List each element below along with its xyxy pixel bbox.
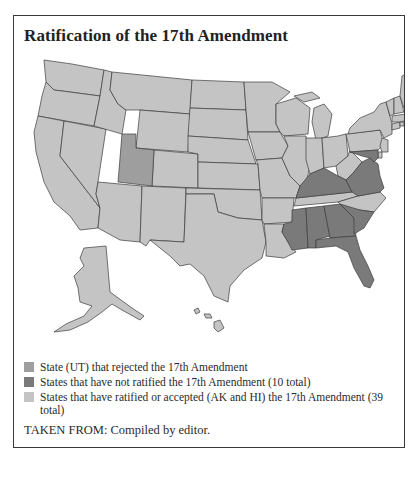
state-AR bbox=[262, 198, 294, 224]
state-NE bbox=[188, 136, 256, 164]
state-AZ bbox=[96, 182, 142, 242]
map-legend: State (UT) that rejected the 17th Amendm… bbox=[24, 361, 394, 419]
state-FL bbox=[316, 236, 374, 288]
legend-label-rejected: State (UT) that rejected the 17th Amendm… bbox=[40, 361, 248, 374]
us-map bbox=[14, 52, 404, 352]
state-CT bbox=[392, 122, 400, 130]
ratified-states bbox=[34, 60, 404, 332]
state-AK bbox=[54, 246, 144, 332]
state-CO bbox=[152, 150, 198, 188]
swatch-rejected-icon bbox=[24, 362, 34, 372]
legend-label-not-ratified: States that have not ratified the 17th A… bbox=[40, 376, 311, 389]
state-KS bbox=[198, 162, 260, 190]
state-IN bbox=[306, 138, 324, 174]
state-NJ bbox=[380, 138, 388, 152]
swatch-not-ratified-icon bbox=[24, 377, 34, 387]
us-map-svg bbox=[14, 52, 404, 352]
source-note: TAKEN FROM: Compiled by editor. bbox=[24, 423, 210, 438]
legend-item-rejected: State (UT) that rejected the 17th Amendm… bbox=[24, 361, 394, 374]
state-ND bbox=[190, 80, 246, 110]
state-IA bbox=[248, 132, 288, 160]
state-HI bbox=[194, 308, 224, 332]
state-WI bbox=[276, 98, 310, 136]
state-NM bbox=[140, 186, 186, 246]
state-DE bbox=[378, 152, 382, 158]
legend-item-not-ratified: States that have not ratified the 17th A… bbox=[24, 376, 394, 389]
swatch-ratified-icon bbox=[24, 392, 34, 402]
legend-item-ratified: States that have ratified or accepted (A… bbox=[24, 391, 394, 417]
state-MA bbox=[392, 114, 404, 122]
legend-label-ratified: States that have ratified or accepted (A… bbox=[40, 391, 394, 417]
state-WY bbox=[136, 110, 190, 152]
state-RI bbox=[400, 122, 404, 126]
state-SD bbox=[188, 108, 248, 140]
figure-title: Ratification of the 17th Amendment bbox=[24, 26, 288, 46]
figure-frame: Ratification of the 17th Amendment bbox=[13, 15, 405, 448]
